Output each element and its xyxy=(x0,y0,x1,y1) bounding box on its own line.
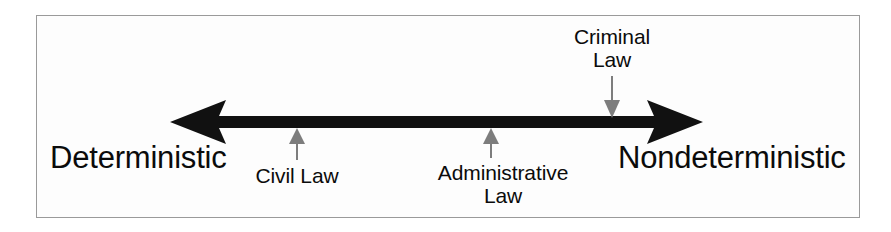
axis-endpoint-label-deterministic: Deterministic xyxy=(50,141,227,174)
marker-label-criminal-law: Criminal Law xyxy=(552,26,672,71)
axis-endpoint-label-nondeterministic: Nondeterministic xyxy=(618,141,846,174)
marker-label-administrative-law: Administrative Law xyxy=(428,162,578,207)
marker-label-administrative-law-line1: Administrative xyxy=(428,162,578,185)
marker-label-criminal-law-line2: Law xyxy=(552,49,672,72)
marker-label-administrative-law-line2: Law xyxy=(428,185,578,208)
marker-label-criminal-law-line1: Criminal xyxy=(552,26,672,49)
marker-label-civil-law: Civil Law xyxy=(232,165,362,188)
marker-label-civil-law-line1: Civil Law xyxy=(232,165,362,188)
diagram-page: Deterministic Nondeterministic Civil Law… xyxy=(0,0,891,232)
